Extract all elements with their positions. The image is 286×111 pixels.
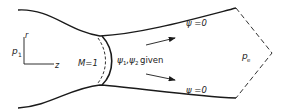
upper-wall-streamline-label: ψ =0 [186,18,207,28]
flow-arrow-lower [146,74,175,80]
lower-wall-streamline-label: ψ =0 [186,85,207,95]
sonic-line [102,36,112,85]
sonic-line-label: M=1 [78,58,98,68]
exit-pressure-subscript: e [247,57,251,63]
throat-condition-label: ψ 1 , ψ 2 given [117,55,163,66]
coordinate-axes [24,37,54,64]
flow-arrow-upper [146,38,175,45]
sonic-line-dashed [98,38,106,83]
svg-text:2: 2 [135,60,139,66]
axis-z-label: z [54,61,60,70]
nozzle-diagram: r z p 1 M=1 ψ 1 , ψ 2 given ψ =0 ψ =0 p … [0,0,286,111]
axis-r-label: r [25,31,29,40]
inlet-pressure-label: p [11,46,18,56]
inlet-pressure-subscript: 1 [18,51,22,58]
svg-text:given: given [140,55,163,65]
